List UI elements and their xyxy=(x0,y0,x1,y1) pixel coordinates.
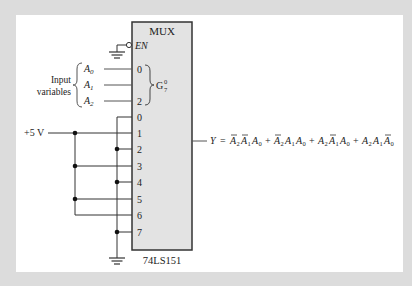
input-a1-label: A1 xyxy=(83,79,94,92)
part-number-label: 74LS151 xyxy=(143,255,182,266)
mux-title: MUX xyxy=(149,25,175,37)
input-group-label-line2: variables xyxy=(37,87,72,97)
literal-subscript: 0 xyxy=(259,140,262,147)
select-group-sup: 0 xyxy=(164,78,167,85)
literal-subscript: 0 xyxy=(347,140,350,147)
junction-dot-icon xyxy=(73,131,78,136)
input-group-brace-icon xyxy=(73,63,82,107)
supply-label: +5 V xyxy=(24,127,45,138)
select-pin-0-label: 0 xyxy=(137,64,142,75)
plus-operator: + xyxy=(353,135,359,146)
literal-subscript: 2 xyxy=(325,140,328,147)
output-equation-terms: A2A1A0+A2A1A0+A2A1A0+A2A1A0 xyxy=(229,135,394,147)
input-a0-label: A0 xyxy=(83,63,94,76)
plus-operator: + xyxy=(309,135,315,146)
literal-subscript: 2 xyxy=(369,140,372,147)
inversion-bubble-icon xyxy=(126,42,131,47)
junction-dot-icon xyxy=(115,230,120,235)
data-pin-5-label: 5 xyxy=(137,194,142,205)
junction-dot-icon xyxy=(73,164,78,169)
junction-dot-icon xyxy=(115,180,120,185)
output: Y = xyxy=(192,135,226,146)
plus-operator: + xyxy=(265,135,271,146)
data-pin-1-label: 1 xyxy=(137,128,142,139)
literal-subscript: 2 xyxy=(281,140,284,147)
literal-subscript: 1 xyxy=(336,140,339,147)
junction-dot-icon xyxy=(73,197,78,202)
data-pin-7-label: 7 xyxy=(137,227,142,238)
ground-icon xyxy=(109,52,125,58)
data-pin-4-label: 4 xyxy=(137,177,142,188)
literal-subscript: 0 xyxy=(391,140,394,147)
input-group-label-line1: Input xyxy=(51,75,71,85)
data-pin-3-label: 3 xyxy=(137,161,142,172)
select-pin-2-label: 2 xyxy=(137,96,142,107)
supply-net: +5 V xyxy=(24,127,132,215)
select-group-label: G xyxy=(156,80,163,91)
literal-subscript: 0 xyxy=(303,140,306,147)
enable-label: EN xyxy=(134,40,149,51)
mux-circuit-diagram: MUX EN A0 A1 A2 Input variables 0 2 G 0 … xyxy=(0,0,412,286)
data-pin-2-label: 2 xyxy=(137,144,142,155)
input-a2-label: A2 xyxy=(83,95,94,108)
literal-subscript: 1 xyxy=(380,140,383,147)
literal-subscript: 1 xyxy=(248,140,251,147)
ground-net xyxy=(109,117,132,264)
data-pin-6-label: 6 xyxy=(137,210,142,221)
literal-subscript: 1 xyxy=(292,140,295,147)
ground-icon xyxy=(109,258,125,264)
output-equation: Y = xyxy=(210,135,226,146)
data-pin-0-label: 0 xyxy=(137,112,142,123)
junction-dot-icon xyxy=(115,147,120,152)
literal-subscript: 2 xyxy=(237,140,240,147)
